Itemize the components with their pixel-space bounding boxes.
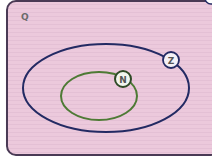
set-n-label-badge: N xyxy=(115,71,131,87)
venn-diagram: Q Z N xyxy=(0,0,212,159)
set-n-label: N xyxy=(119,75,127,85)
set-z-label: Z xyxy=(168,56,175,66)
set-z-label-badge: Z xyxy=(163,52,179,68)
universe-label: Q xyxy=(21,12,29,22)
